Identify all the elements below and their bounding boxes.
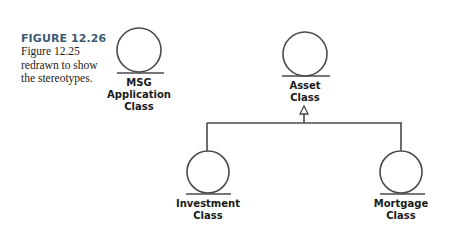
asset-class-label: Asset Class — [275, 80, 335, 104]
investment-class-icon — [186, 151, 231, 194]
label-line: Class — [99, 101, 179, 113]
label-line: Application — [99, 89, 179, 101]
mortgage-class-icon — [380, 151, 425, 194]
asset-class-icon — [282, 32, 330, 76]
label-line: Class — [361, 210, 441, 222]
label-line: Class — [163, 210, 253, 222]
label-line: MSG — [99, 77, 179, 89]
mortgage-class-label: Mortgage Class — [361, 198, 441, 222]
label-line: Mortgage — [361, 198, 441, 210]
msg-application-class-icon — [117, 28, 164, 73]
generalization-arrow-icon — [300, 106, 308, 114]
investment-class-label: Investment Class — [163, 198, 253, 222]
label-line: Class — [275, 92, 335, 104]
label-line: Asset — [275, 80, 335, 92]
msg-application-class-label: MSG Application Class — [99, 77, 179, 113]
generalization-connector — [207, 114, 402, 151]
label-line: Investment — [163, 198, 253, 210]
